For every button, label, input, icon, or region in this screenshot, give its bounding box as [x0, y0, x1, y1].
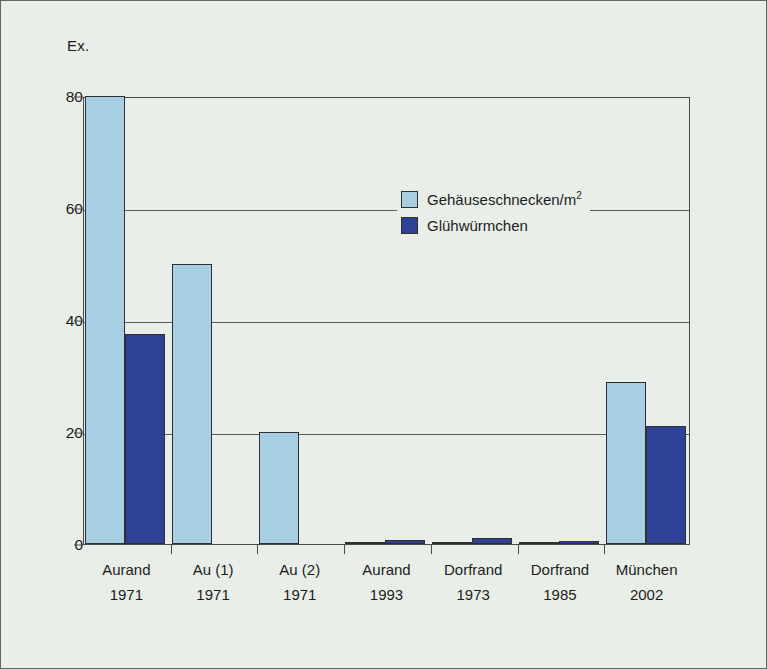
x-category-place: Dorfrand	[531, 561, 589, 578]
bar-group	[257, 98, 344, 544]
bar-light	[432, 542, 472, 545]
x-category-place: Au (2)	[279, 561, 320, 578]
bar-light	[606, 382, 646, 544]
x-category-label: Au (1)1971	[170, 557, 257, 607]
x-category-year: 2002	[603, 582, 690, 607]
bars-layer	[84, 98, 689, 544]
x-tick-mark	[344, 544, 345, 554]
x-category-place: München	[616, 561, 678, 578]
legend-label-text: Glühwürmchen	[427, 217, 528, 234]
x-tick-mark	[518, 544, 519, 554]
bar-light	[519, 542, 559, 545]
x-tick-mark	[257, 544, 258, 554]
chart-legend: Gehäuseschnecken/m2Glühwürmchen	[397, 181, 590, 249]
legend-label-superscript: 2	[576, 190, 582, 201]
x-category-place: Aurand	[102, 561, 150, 578]
x-category-label: München2002	[603, 557, 690, 607]
x-category-place: Aurand	[362, 561, 410, 578]
bar-dark	[125, 334, 165, 544]
x-tick-mark	[604, 544, 605, 554]
bar-dark	[646, 426, 686, 544]
x-tick-mark	[171, 544, 172, 554]
legend-item: Gehäuseschnecken/m2	[401, 190, 582, 208]
chart-page: Ex. 020406080 Aurand1971Au (1)1971Au (2)…	[0, 0, 767, 669]
bar-light	[259, 432, 299, 544]
legend-item: Glühwürmchen	[401, 217, 582, 234]
bar-group	[344, 98, 431, 544]
x-category-year: 1971	[83, 582, 170, 607]
bar-group	[431, 98, 518, 544]
x-category-year: 1985	[517, 582, 604, 607]
x-category-label: Au (2)1971	[256, 557, 343, 607]
y-axis: 020406080	[23, 97, 83, 545]
bar-group	[518, 98, 605, 544]
x-category-place: Au (1)	[193, 561, 234, 578]
bar-group	[84, 98, 171, 544]
plot-area	[83, 97, 690, 545]
y-tick-mark	[74, 97, 83, 98]
bar-group	[604, 98, 691, 544]
x-tick-mark	[431, 544, 432, 554]
x-category-place: Dorfrand	[444, 561, 502, 578]
x-category-label: Aurand1971	[83, 557, 170, 607]
x-category-year: 1973	[430, 582, 517, 607]
x-category-year: 1971	[170, 582, 257, 607]
bar-dark	[385, 540, 425, 544]
legend-label: Gehäuseschnecken/m2	[427, 190, 582, 208]
bar-dark	[472, 538, 512, 544]
y-tick-mark	[74, 321, 83, 322]
bar-light	[345, 542, 385, 545]
x-category-label: Aurand1993	[343, 557, 430, 607]
y-tick-mark	[74, 545, 83, 546]
legend-swatch-light	[401, 191, 418, 208]
x-category-label: Dorfrand1973	[430, 557, 517, 607]
y-axis-unit-caption: Ex.	[67, 37, 90, 54]
bar-light	[172, 264, 212, 544]
bar-group	[171, 98, 258, 544]
legend-label: Glühwürmchen	[427, 217, 528, 234]
y-tick-mark	[74, 209, 83, 210]
bar-light	[85, 96, 125, 544]
x-category-year: 1971	[256, 582, 343, 607]
x-category-label: Dorfrand1985	[517, 557, 604, 607]
bar-dark	[559, 541, 599, 544]
y-tick-mark	[74, 433, 83, 434]
legend-label-text: Gehäuseschnecken/m	[427, 191, 576, 208]
x-category-year: 1993	[343, 582, 430, 607]
legend-swatch-dark	[401, 217, 418, 234]
x-axis-labels: Aurand1971Au (1)1971Au (2)1971Aurand1993…	[83, 557, 690, 621]
